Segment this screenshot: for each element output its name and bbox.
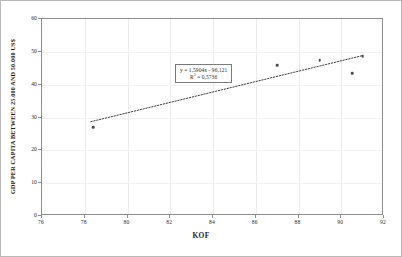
y-axis-title: GDP PER CAPITA BETWEEN 25.000 AND 50.000… — [9, 18, 19, 215]
y-tick-mark — [38, 117, 41, 118]
y-tick-mark — [38, 215, 41, 216]
x-tick-label: 84 — [209, 219, 215, 225]
y-tick-label: 20 — [31, 146, 37, 152]
x-tick-label: 90 — [337, 219, 343, 225]
x-tick-label: 92 — [380, 219, 386, 225]
x-tick-mark — [340, 215, 341, 218]
r-squared-value: = 0,5736 — [196, 74, 217, 80]
data-point — [319, 59, 322, 62]
data-point — [361, 55, 364, 58]
y-tick-label: 40 — [31, 81, 37, 87]
data-point — [92, 126, 95, 129]
trendline-equation-box: y = 1,5904x - 96,121 R2 = 0,5736 — [175, 64, 232, 83]
y-tick-label: 10 — [31, 179, 37, 185]
x-tick-mark — [41, 215, 42, 218]
x-tick-mark — [169, 215, 170, 218]
x-tick-label: 76 — [38, 219, 44, 225]
y-tick-label: 50 — [31, 48, 37, 54]
x-tick-mark — [255, 215, 256, 218]
y-tick-mark — [38, 182, 41, 183]
x-tick-mark — [212, 215, 213, 218]
y-tick-mark — [38, 51, 41, 52]
x-axis-title: KOF — [1, 231, 401, 240]
y-tick-mark — [38, 149, 41, 150]
data-point — [351, 72, 354, 75]
y-tick-label: 0 — [34, 212, 37, 218]
trendline — [42, 19, 382, 214]
x-tick-mark — [298, 215, 299, 218]
y-tick-label: 60 — [31, 15, 37, 21]
plot-area: y = 1,5904x - 96,121 R2 = 0,5736 — [41, 18, 383, 215]
x-tick-label: 80 — [124, 219, 130, 225]
x-tick-label: 86 — [252, 219, 258, 225]
x-tick-label: 82 — [166, 219, 172, 225]
x-tick-mark — [84, 215, 85, 218]
y-tick-label: 30 — [31, 114, 37, 120]
y-tick-mark — [38, 84, 41, 85]
x-tick-label: 78 — [81, 219, 87, 225]
x-tick-label: 88 — [295, 219, 301, 225]
y-tick-mark — [38, 18, 41, 19]
x-tick-mark — [127, 215, 128, 218]
trendline-r-squared: R2 = 0,5736 — [180, 73, 227, 80]
data-point — [276, 64, 279, 67]
x-tick-mark — [383, 215, 384, 218]
chart-figure: GDP PER CAPITA BETWEEN 25.000 AND 50.000… — [0, 0, 402, 257]
